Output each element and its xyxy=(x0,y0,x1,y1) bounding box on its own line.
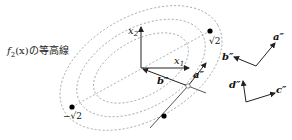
x1-axis-label: x1 xyxy=(174,55,184,68)
a-line xyxy=(150,86,188,128)
point-neg-sqrt2 xyxy=(69,104,74,109)
diagram-svg: x2 x1 b″ a″ √2 −√2 a″ b″ d″ c″ xyxy=(0,0,292,140)
b-vector-line-extension xyxy=(188,86,206,93)
b-vector-label: b″ xyxy=(157,75,169,86)
vector-pair-cd: d″ c″ xyxy=(229,79,287,102)
a-vector-label: a″ xyxy=(193,69,204,80)
point-pos-label: √2 xyxy=(209,36,220,46)
vector-pair-ab: a″ b″ xyxy=(222,31,284,66)
x2-axis-label: x2 xyxy=(128,25,139,38)
pair-a-label: a″ xyxy=(273,31,284,42)
contour-caption: f2(x)の等高線 xyxy=(7,42,69,59)
tangent-point-open xyxy=(186,84,190,88)
caption-arg: (x) xyxy=(15,45,28,56)
pair-a-vector xyxy=(256,43,275,66)
pair-c-label: c″ xyxy=(276,84,287,95)
pair-b-vector xyxy=(234,57,256,66)
point-neg-label: −√2 xyxy=(63,111,82,121)
point-on-a-line xyxy=(161,113,166,118)
point-pos-sqrt2 xyxy=(207,28,212,33)
caption-suffix: の等高線 xyxy=(29,45,69,56)
pair-d-vector xyxy=(243,81,246,102)
pair-b-label: b″ xyxy=(222,51,234,62)
contour-diagram: f2(x)の等高線 x2 x1 b″ a″ √2 −√2 xyxy=(0,0,292,140)
pair-d-label: d″ xyxy=(229,79,241,90)
pair-c-vector xyxy=(246,93,275,102)
